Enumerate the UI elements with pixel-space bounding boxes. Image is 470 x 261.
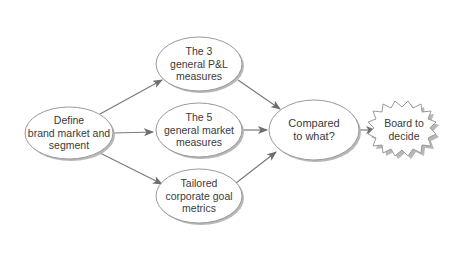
label-line: Compared: [288, 117, 339, 130]
label-line: measures: [164, 136, 234, 149]
label-line: general P&L: [170, 58, 228, 71]
edge-pl-to-compared: [238, 80, 280, 109]
label-line: metrics: [165, 202, 232, 215]
label-line: Board to: [384, 117, 424, 130]
label-line: The 3: [170, 45, 228, 58]
label-line: to what?: [288, 130, 339, 143]
flowchart-diagram: Define brand market and segment The 3 ge…: [0, 0, 470, 261]
label-line: segment: [28, 139, 110, 152]
label-line: The 5: [164, 111, 234, 124]
label-line: brand market and: [28, 127, 110, 140]
label-line: measures: [170, 70, 228, 83]
label-line: corporate goal: [165, 190, 232, 203]
label-define: Define brand market and segment: [28, 114, 110, 152]
label-tailored: Tailored corporate goal metrics: [165, 177, 232, 215]
label-line: general market: [164, 124, 234, 137]
edge-define-to-tailored: [98, 152, 162, 184]
label-line: Tailored: [165, 177, 232, 190]
label-pl: The 3 general P&L measures: [170, 45, 228, 83]
label-line: decide: [384, 129, 424, 142]
label-compared: Compared to what?: [288, 117, 339, 143]
label-market: The 5 general market measures: [164, 111, 234, 149]
edge-define-to-market: [114, 132, 153, 133]
edge-tailored-to-compared: [236, 152, 276, 183]
edge-define-to-pl: [100, 80, 162, 114]
label-board: Board to decide: [384, 117, 424, 142]
label-line: Define: [28, 114, 110, 127]
